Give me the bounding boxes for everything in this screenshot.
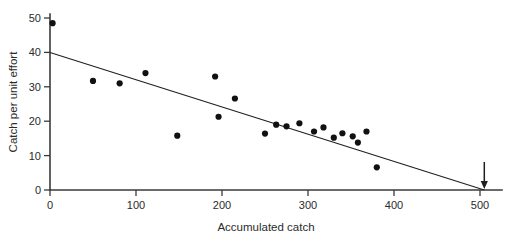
x-tick-label: 500 bbox=[471, 199, 489, 211]
y-axis-title: Catch per unit effort bbox=[7, 51, 19, 153]
data-point bbox=[262, 130, 268, 136]
plot-background bbox=[0, 0, 510, 246]
data-point bbox=[174, 133, 180, 139]
data-point bbox=[142, 70, 148, 76]
chart-figure: 01020304050 0100200300400500 Accumulated… bbox=[0, 0, 510, 246]
data-point bbox=[331, 135, 337, 141]
data-point bbox=[350, 133, 356, 139]
data-point bbox=[117, 80, 123, 86]
data-point bbox=[374, 164, 380, 170]
data-point bbox=[363, 128, 369, 134]
data-point bbox=[212, 73, 218, 79]
y-tick-label: 50 bbox=[29, 12, 41, 24]
y-tick-label: 0 bbox=[35, 184, 41, 196]
data-point bbox=[273, 122, 279, 128]
data-point bbox=[232, 95, 238, 101]
y-tick-label: 40 bbox=[29, 46, 41, 58]
data-point bbox=[311, 128, 317, 134]
data-point bbox=[339, 130, 345, 136]
data-point bbox=[49, 20, 55, 26]
x-tick-label: 400 bbox=[385, 199, 403, 211]
data-point bbox=[90, 78, 96, 84]
y-tick-label: 30 bbox=[29, 81, 41, 93]
data-point bbox=[355, 139, 361, 145]
scatter-plot-canvas: 01020304050 0100200300400500 Accumulated… bbox=[0, 0, 510, 246]
x-tick-label: 0 bbox=[47, 199, 53, 211]
data-point bbox=[296, 120, 302, 126]
y-tick-label: 10 bbox=[29, 150, 41, 162]
y-tick-label: 20 bbox=[29, 115, 41, 127]
x-tick-label: 200 bbox=[213, 199, 231, 211]
x-tick-label: 100 bbox=[127, 199, 145, 211]
data-point bbox=[215, 114, 221, 120]
data-point bbox=[320, 124, 326, 130]
data-point bbox=[283, 123, 289, 129]
x-tick-label: 300 bbox=[299, 199, 317, 211]
x-axis-title: Accumulated catch bbox=[217, 221, 314, 233]
